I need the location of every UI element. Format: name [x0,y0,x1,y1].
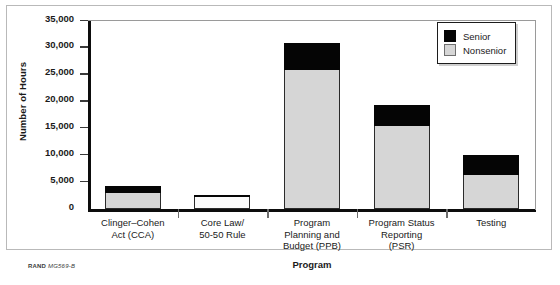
y-tick-label: 35,000 [20,13,74,24]
legend-label-senior: Senior [463,31,490,42]
y-tick-label: 25,000 [20,66,74,77]
y-tick: 25,000 [80,73,88,75]
y-tick: 0 [80,208,88,210]
x-axis-label: Program Status Reporting (PSR) [357,217,447,252]
bar-segment-nonsenior [284,70,340,209]
y-tick-label: 30,000 [20,39,74,50]
y-tick: 35,000 [80,20,88,22]
credit-org: RAND [28,263,46,269]
bar-segment-nonsenior [194,197,250,209]
y-tick-label: 20,000 [20,93,74,104]
black-square-icon [444,30,456,42]
bar-segment-senior [374,105,430,126]
y-tick-label: 15,000 [20,120,74,131]
bar-segment-senior [463,155,519,175]
bar-segment-nonsenior [463,175,519,209]
x-axis-label: Clinger–Cohen Act (CCA) [88,217,178,240]
y-axis-line [88,20,91,210]
y-tick: 30,000 [80,46,88,48]
legend-item-nonsenior: Nonsenior [444,44,506,56]
bar-segment-senior [194,195,250,197]
y-tick-label: 5,000 [20,174,74,185]
y-tick: 10,000 [80,154,88,156]
credit-ref: MG569-B [48,263,75,269]
y-tick: 5,000 [80,181,88,183]
bar-5 [463,155,519,209]
bar-2 [194,195,250,210]
plot-frame-top [88,20,536,21]
y-tick: 20,000 [80,100,88,102]
bar-segment-nonsenior [105,193,161,209]
gray-square-icon [444,44,456,56]
x-axis-label: Core Law/ 50-50 Rule [178,217,268,240]
bar-segment-senior [105,186,161,193]
x-axis-label: Testing [446,217,536,229]
figure-credit: RAND MG569-B [28,263,75,269]
bar-segment-nonsenior [374,126,430,209]
y-tick-label: 0 [20,201,74,212]
legend: Senior Nonsenior [437,22,516,64]
bar-1 [105,186,161,209]
figure-container: Number of Hours 05,00010,00015,00020,000… [0,0,560,285]
y-tick-label: 10,000 [20,147,74,158]
y-tick: 15,000 [80,127,88,129]
x-axis-label: Program Planning and Budget (PPB) [267,217,357,252]
bar-3 [284,43,340,209]
plot-frame-right [535,20,536,210]
legend-item-senior: Senior [444,30,506,42]
legend-label-nonsenior: Nonsenior [463,45,506,56]
bar-4 [374,105,430,209]
x-axis-title: Program [88,259,536,270]
x-axis-line [88,209,536,212]
bar-segment-senior [284,43,340,70]
